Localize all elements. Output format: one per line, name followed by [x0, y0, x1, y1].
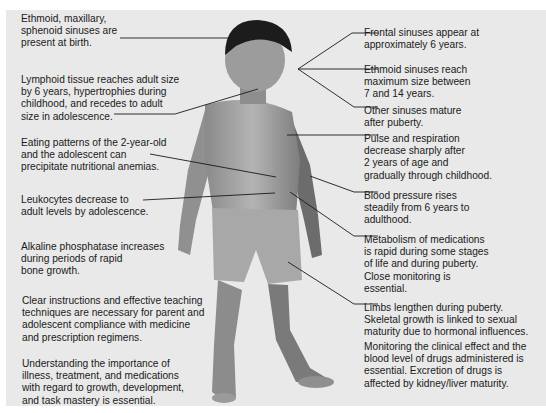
label-ethmoid-maximum: Ethmoid sinuses reach maximum size betwe…: [364, 64, 470, 101]
label-pulse-respiration: Pulse and respiration decrease sharply a…: [364, 133, 492, 182]
label-lymphoid-tissue: Lymphoid tissue reaches adult size by 6 …: [21, 74, 179, 123]
label-frontal-sinuses: Frontal sinuses appear at approximately …: [364, 27, 479, 51]
label-sinuses-birth: Ethmoid, maxillary, sphenoid sinuses are…: [21, 13, 117, 50]
label-understanding-importance: Understanding the importance of illness,…: [22, 358, 184, 407]
label-leukocytes: Leukocytes decrease to adult levels by a…: [21, 194, 148, 218]
label-limbs-lengthen: Limbs lengthen during puberty. Skeletal …: [364, 302, 528, 339]
label-blood-pressure: Blood pressure rises steadily from 6 yea…: [364, 190, 469, 227]
label-metabolism-medications: Metabolism of medications is rapid durin…: [364, 234, 489, 295]
label-eating-patterns: Eating patterns of the 2-year-old and th…: [21, 137, 167, 174]
label-other-sinuses: Other sinuses mature after puberty.: [364, 105, 461, 129]
label-monitoring-drugs: Monitoring the clinical effect and the b…: [364, 341, 526, 390]
label-alkaline-phosphatase: Alkaline phosphatase increases during pe…: [21, 241, 164, 278]
label-clear-instructions: Clear instructions and effective teachin…: [22, 295, 204, 344]
